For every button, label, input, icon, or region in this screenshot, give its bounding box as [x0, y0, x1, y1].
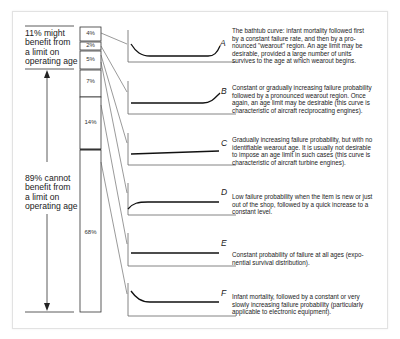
- percentage-bar: [80, 27, 101, 312]
- label-line: operating age: [25, 202, 78, 211]
- curve-description-e: Constant probability of failure at all a…: [232, 251, 382, 266]
- curve-description-f: Infant mortality, followed by a constant…: [232, 293, 382, 316]
- desc-line: out of the shop, followed by a quick inc…: [232, 201, 382, 209]
- desc-line: characteristic of aircraft turbine engin…: [232, 159, 382, 167]
- curve-letter-a: A: [220, 38, 226, 48]
- curve-description-c: Gradually increasing failure probability…: [232, 136, 382, 166]
- curve-description-b: Constant or gradually increasing failure…: [232, 84, 382, 114]
- curve-letter-c: C: [221, 138, 227, 148]
- desc-line: Low failure probability when the item is…: [232, 193, 382, 201]
- curve-letter-e: E: [221, 238, 227, 248]
- segment-percent-a: 4%: [80, 30, 101, 36]
- curve-letter-f: F: [221, 288, 226, 298]
- desc-line: applicable to electronic equipment).: [232, 308, 382, 316]
- desc-line: slowly increasing failure probability (p…: [232, 301, 382, 309]
- curve-description-d: Low failure probability when the item is…: [232, 193, 382, 216]
- desc-line: Gradually increasing failure probability…: [232, 136, 382, 144]
- desc-line: constant level.: [232, 208, 382, 216]
- desc-line: survives to the age at which wearout beg…: [232, 57, 382, 65]
- curve-panel-d: [128, 183, 236, 215]
- label-line: operating age: [25, 57, 78, 66]
- desc-line: desirable, provided a large number of un…: [232, 50, 382, 58]
- segment-percent-b: 2%: [80, 42, 101, 48]
- cannot-benefit-label: 89% cannot benefit from a limit on opera…: [25, 173, 78, 212]
- arrow-up-icon: [44, 70, 50, 78]
- curve-panel-f: [128, 283, 236, 316]
- arrow-down-icon: [44, 303, 50, 311]
- curve-description-a: The bathtub curve: infant mortality foll…: [232, 27, 382, 65]
- curve-panel-e: [128, 233, 236, 266]
- desc-line: followed by a pronounced wearout region.…: [232, 92, 382, 100]
- desc-line: Constant probability of failure at all a…: [232, 251, 382, 259]
- curve-letter-d: D: [221, 187, 227, 197]
- curve-panel-c: [128, 133, 236, 165]
- desc-line: to impose an age limit in such cases (th…: [232, 151, 382, 159]
- might-benefit-label: 11% might benefit from a limit on operat…: [25, 29, 78, 66]
- desc-line: Infant mortality, followed by a constant…: [232, 293, 382, 301]
- segment-percent-f: 68%: [80, 229, 101, 235]
- desc-line: by a constant failure rate, and then by …: [232, 35, 382, 43]
- desc-line: Constant or gradually increasing failure…: [232, 84, 382, 92]
- desc-line: characteristic of aircraft reciprocating…: [232, 107, 382, 115]
- segment-percent-d: 7%: [80, 78, 101, 84]
- desc-line: identifiable wearout age. It is usually …: [232, 144, 382, 152]
- curve-letter-b: B: [221, 86, 227, 96]
- segment-percent-e: 14%: [80, 119, 101, 125]
- connector-lines: [101, 33, 127, 294]
- segment-percent-c: 5%: [80, 56, 101, 62]
- left-bracket: [25, 26, 74, 312]
- desc-line: The bathtub curve: infant mortality foll…: [232, 27, 382, 35]
- curve-panel-b: [128, 81, 236, 114]
- desc-line: nounced "wearout" region. An age limit m…: [232, 42, 382, 50]
- desc-line: nential survival distribution).: [232, 259, 382, 267]
- desc-line: again, an age limit may be desirable (th…: [232, 99, 382, 107]
